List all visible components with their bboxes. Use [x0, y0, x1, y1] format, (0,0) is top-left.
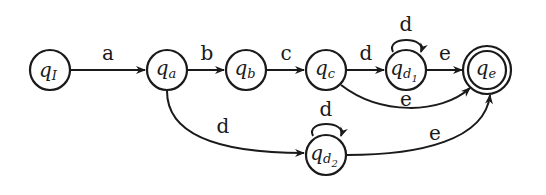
- edge-qa-qd2: d: [167, 91, 304, 153]
- edge-qb-qc: c: [267, 41, 304, 70]
- state-qd1: qd1: [386, 50, 426, 90]
- edge-label: d: [217, 114, 230, 138]
- state-qe-accepting: qe: [463, 46, 511, 94]
- edge-qd1-loop: d: [392, 12, 422, 52]
- edge-label: d: [320, 97, 333, 121]
- edge-qd2-loop: d: [312, 97, 342, 136]
- state-qa: qa: [147, 50, 187, 90]
- edge-label: a: [102, 41, 114, 65]
- state-qd2: qd2: [306, 135, 346, 175]
- edge-label: d: [360, 41, 373, 65]
- edge-qc-qd1: d: [347, 41, 384, 70]
- edge-qa-qb: b: [188, 41, 224, 70]
- edge-label: e: [429, 121, 441, 145]
- edge-label: d: [400, 12, 413, 36]
- edge-qI-qa: a: [70, 41, 145, 70]
- automaton-diagram: a b c d d e e d d e qI qa: [0, 0, 546, 195]
- state-qb: qb: [226, 50, 266, 90]
- edge-qd1-qe: e: [427, 41, 462, 70]
- edge-label: e: [439, 41, 451, 65]
- state-qI: qI: [30, 50, 70, 90]
- state-qc: qc: [306, 50, 346, 90]
- edge-qd2-qe: e: [347, 95, 490, 155]
- edge-label: c: [280, 41, 291, 65]
- edge-label: b: [201, 41, 214, 65]
